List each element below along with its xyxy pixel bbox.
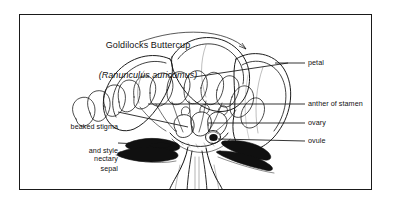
diagram-plate: Goldilocks Buttercup (Ranunculus auricom…: [19, 14, 372, 190]
label-sepal: sepal: [24, 149, 118, 189]
diagram-page: Goldilocks Buttercup (Ranunculus auricom…: [0, 0, 396, 212]
title-scientific-name: (Ranunculus auricomus): [68, 70, 228, 80]
label-beaked-stigma-line-1: beaked stigma: [24, 123, 118, 131]
label-sepal-text: sepal: [24, 165, 118, 173]
diagram-plate-inner: Goldilocks Buttercup (Ranunculus auricom…: [20, 15, 371, 189]
plate-title: Goldilocks Buttercup (Ranunculus auricom…: [68, 20, 228, 101]
label-ovule: ovule: [308, 137, 325, 145]
label-petal: petal: [308, 59, 324, 67]
title-common-name: Goldilocks Buttercup: [68, 40, 228, 50]
label-ovary: ovary: [308, 119, 326, 127]
leader-beaked-stigma: [118, 112, 188, 127]
label-anther-of-stamen: anther of stamen: [308, 100, 363, 108]
